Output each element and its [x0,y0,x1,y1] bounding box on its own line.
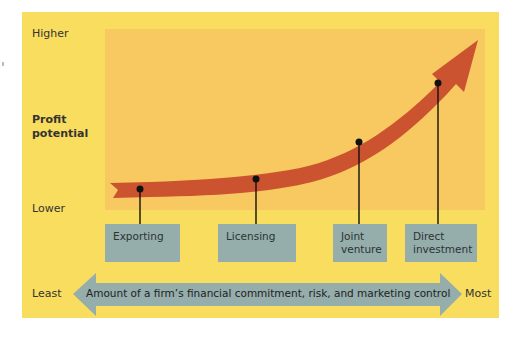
joint-venture-point [356,139,363,146]
x-axis-high-label: Most [465,287,491,300]
entry-mode-label: venture [341,243,387,256]
entry-mode-label: investment [413,243,477,256]
profit-curve-arrow [110,40,478,198]
direct-investment-point [435,80,442,87]
entry-mode-exporting: Exporting [105,224,180,262]
entry-mode-label: Direct [413,230,477,243]
entry-mode-direct-investment: Direct investment [405,224,477,262]
entry-mode-label: Licensing [226,230,296,243]
x-axis-arrow-text: Amount of a firm’s financial commitment,… [86,287,456,299]
entry-mode-label: Joint [341,230,387,243]
licensing-point [253,176,260,183]
entry-mode-licensing: Licensing [218,224,296,262]
entry-mode-joint-venture: Joint venture [333,224,387,262]
x-axis-low-label: Least [32,287,62,300]
entry-mode-label: Exporting [113,230,180,243]
exporting-point [137,186,144,193]
